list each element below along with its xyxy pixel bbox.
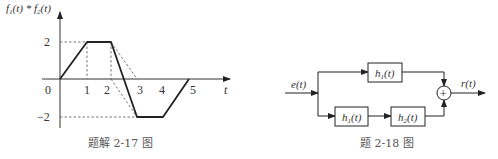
x-tick-1: 1 (84, 83, 90, 97)
block-bottom-h1-label: h1(t) (342, 111, 362, 125)
block-bottom-h2-label: h2(t) (398, 111, 418, 125)
y-tick-2: 2 (44, 35, 50, 49)
input-label: e(t) (291, 78, 307, 91)
origin-label: 0 (45, 83, 51, 97)
x-tick-3: 3 (137, 83, 143, 97)
x-tick-4: 4 (159, 83, 165, 97)
figure-caption-2-18: 题 2-18 图 (360, 137, 414, 150)
y-axis-label: f1(t) * f2(t) (6, 2, 51, 16)
block-diagram-labels: + e(t) r(t) h1(t) h1(t) h2(t) 题 2-18 图 (291, 67, 476, 150)
convolution-plot: f1(t) * f2(t) 2 −2 0 1 2 3 4 5 t 题解 2-17… (6, 2, 230, 150)
summer-plus-icon: + (440, 86, 447, 101)
x-tick-2: 2 (104, 83, 110, 97)
x-axis-label: t (224, 83, 228, 97)
block-top-h1-label: h1(t) (375, 67, 395, 81)
x-tick-5: 5 (190, 83, 196, 97)
figure-caption-2-17: 题解 2-17 图 (88, 136, 153, 150)
y-tick-neg2: −2 (37, 110, 50, 124)
output-label: r(t) (461, 77, 476, 90)
